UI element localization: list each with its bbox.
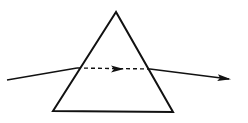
- prism-refraction-diagram: [0, 0, 248, 123]
- background: [0, 0, 248, 123]
